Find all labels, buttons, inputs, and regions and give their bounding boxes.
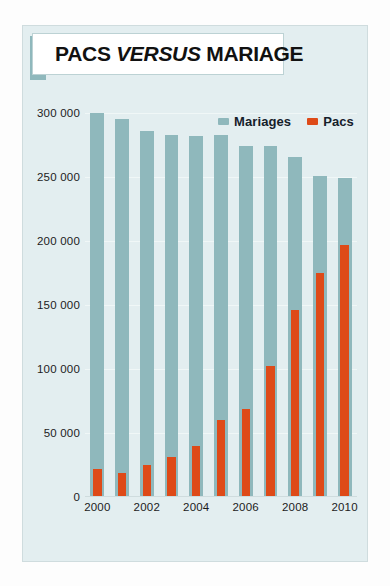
bar-group-2002 [140,113,154,497]
bar-pacs-2001 [118,473,126,497]
bar-mariages-2004 [189,136,203,497]
bar-group-2007 [264,113,278,497]
bar-pacs-2007 [266,366,274,497]
x-axis-tick-label-2010: 2010 [331,501,357,513]
y-axis-tick-label: 0 [73,491,80,503]
legend-label-mariages: Mariages [234,114,291,129]
y-axis-tick-label: 200 000 [37,235,80,247]
bar-pacs-2010 [340,245,348,497]
bar-mariages-2001 [115,119,129,497]
page-title: PACS VERSUS MARIAGE [55,42,303,66]
legend-label-pacs: Pacs [323,114,354,129]
x-axis-labels: 200020022004200620082010 [85,501,357,519]
bar-pacs-2008 [291,310,299,497]
bar-group-2005 [214,113,228,497]
bar-pacs-2002 [143,465,151,497]
title-emphasis: VERSUS [116,42,201,65]
bar-pacs-2006 [242,409,250,497]
bars-container [85,113,357,497]
bar-pacs-2004 [192,446,200,497]
bar-pacs-2005 [217,420,225,497]
bar-group-2000 [90,113,104,497]
legend-swatch-mariages [218,118,229,125]
x-axis-tick-label-2004: 2004 [183,501,209,513]
x-axis-tick-label-2002: 2002 [134,501,160,513]
bar-group-2001 [115,113,129,497]
bar-pacs-2000 [93,469,101,497]
plot-area: Mariages Pacs 050 000100 000150 000200 0… [22,88,368,518]
title-lead: PACS [55,42,116,65]
y-axis-tick-label: 100 000 [37,363,80,375]
chart-legend: Mariages Pacs [218,114,354,129]
legend-swatch-pacs [307,118,318,125]
bar-mariages-2000 [90,113,104,497]
legend-item-mariages: Mariages [218,114,291,129]
bar-group-2003 [165,113,179,497]
chart-title-plate: PACS VERSUS MARIAGE [32,33,284,75]
bar-group-2006 [239,113,253,497]
bar-pacs-2003 [167,457,175,497]
legend-item-pacs: Pacs [307,114,354,129]
bar-group-2009 [313,113,327,497]
y-axis-tick-label: 250 000 [37,171,80,183]
bar-group-2010 [338,113,352,497]
bar-pacs-2009 [316,273,324,497]
x-axis-tick-label-2006: 2006 [233,501,259,513]
infographic-page: PACS VERSUS MARIAGE Mariages Pacs 050 00… [0,0,390,586]
x-axis-tick-label-2000: 2000 [84,501,110,513]
x-axis-tick-label-2008: 2008 [282,501,308,513]
bar-group-2004 [189,113,203,497]
y-axis-tick-label: 50 000 [44,427,80,439]
x-axis-line [85,496,357,497]
title-trail: MARIAGE [201,42,304,65]
y-axis-labels: 050 000100 000150 000200 000250 000300 0… [22,113,80,497]
bar-mariages-2002 [140,131,154,497]
bar-group-2008 [288,113,302,497]
y-axis-tick-label: 300 000 [37,107,80,119]
y-axis-tick-label: 150 000 [37,299,80,311]
bar-mariages-2003 [165,135,179,497]
